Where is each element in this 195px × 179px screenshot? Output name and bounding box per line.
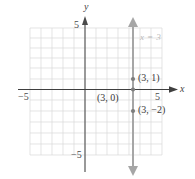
x-tick-label-5: 5 xyxy=(155,92,160,102)
point-label-3-neg2: (3, −2) xyxy=(138,105,165,115)
y-tick-label-5: 5 xyxy=(74,20,79,30)
x-tick-label-neg5: −5 xyxy=(18,92,29,102)
point-3-1 xyxy=(131,77,135,81)
point-label-3-1: (3, 1) xyxy=(138,73,160,83)
y-axis-label: y xyxy=(84,2,88,12)
point-label-3-0: (3, 0) xyxy=(97,93,119,103)
point-3-0 xyxy=(131,87,135,91)
y-axis xyxy=(82,16,88,172)
line-x-equals-3 xyxy=(128,17,138,176)
graph-canvas xyxy=(0,0,195,179)
y-tick-label-neg5: −5 xyxy=(71,150,82,160)
grid-lines-vertical xyxy=(30,28,162,155)
coordinate-plane-figure: y x 5 −5 −5 5 x = 3 (3, 1) (3, 0) (3, −2… xyxy=(0,0,195,179)
line-equation-label: x = 3 xyxy=(140,33,161,42)
point-3-neg2 xyxy=(131,109,135,113)
x-axis-label: x xyxy=(180,84,184,94)
